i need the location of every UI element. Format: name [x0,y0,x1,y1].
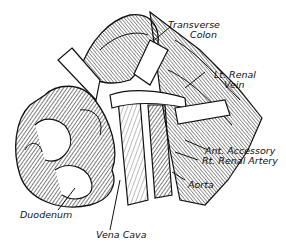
label-lt-renal-vein-line2: Vein [214,80,256,90]
label-ant-accessory-line2: Rt. Renal Artery [202,156,278,166]
label-lt-renal-vein: Lt. Renal Vein [214,70,256,90]
label-transverse-colon-line2: Colon [168,30,220,40]
label-aorta: Aorta [188,180,214,190]
label-vena-cava: Vena Cava [96,230,147,240]
label-ant-accessory-rt-renal-artery: Ant. Accessory Rt. Renal Artery [202,146,278,166]
bowel-loops [16,86,115,207]
label-transverse-colon: Transverse Colon [168,20,220,40]
label-duodenum: Duodenum [20,210,72,220]
